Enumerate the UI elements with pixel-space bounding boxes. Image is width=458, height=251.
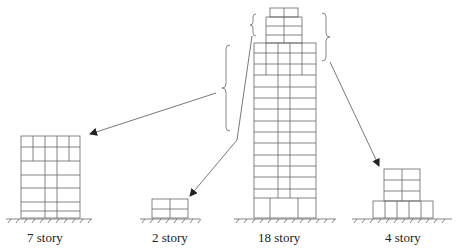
- arrow-to-2-story: [190, 36, 252, 196]
- label-18-story: 18 story: [258, 230, 300, 246]
- ground-7-story: [6, 219, 92, 223]
- arrow-to-4-story: [330, 62, 379, 166]
- building-7-story: [21, 136, 80, 218]
- ground-18-story: [234, 219, 336, 223]
- brace-right-top: [322, 13, 330, 61]
- label-2-story: 2 story: [152, 230, 188, 246]
- building-story-diagram: 7 story 2 story 18 story 4 story: [0, 0, 458, 251]
- brace-left-middle: [222, 45, 230, 131]
- building-18-story: [254, 8, 316, 218]
- building-2-story: [152, 199, 188, 218]
- diagram-canvas: [0, 0, 458, 251]
- label-7-story: 7 story: [27, 230, 63, 246]
- arrow-to-7-story: [90, 93, 216, 134]
- ground-2-story: [140, 219, 201, 223]
- building-4-story: [373, 169, 433, 218]
- brace-top-left: [250, 14, 256, 36]
- label-4-story: 4 story: [385, 230, 421, 246]
- ground-4-story: [352, 219, 452, 223]
